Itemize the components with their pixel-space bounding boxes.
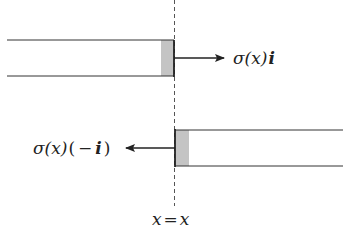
stress-diagram: σ(x)i σ(x)(−i) x=x: [0, 0, 348, 236]
upper-force-label: σ(x)i: [233, 48, 275, 68]
upper-bar: [7, 40, 174, 77]
lower-bar-shaded-face: [175, 130, 189, 166]
section-label: x=x: [152, 209, 190, 229]
lower-force-label: σ(x)(−i): [33, 138, 110, 158]
lower-bar: [175, 129, 343, 167]
upper-bar-shaded-face: [161, 40, 174, 76]
